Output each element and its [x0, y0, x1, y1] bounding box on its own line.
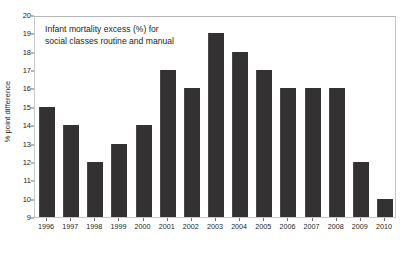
x-tick-mark [312, 218, 313, 221]
bar [87, 162, 103, 217]
bar [377, 199, 393, 217]
bar [63, 125, 79, 217]
x-tick-mark [46, 218, 47, 221]
x-tick-mark [143, 218, 144, 221]
x-tick-mark [239, 218, 240, 221]
y-tick-label: 10 [23, 196, 31, 204]
bar [256, 70, 272, 217]
bar-chart-figure: % point difference 910111213141516171819… [0, 0, 400, 256]
y-axis-title-label: % point difference [4, 80, 13, 142]
bar [184, 88, 200, 217]
bar [111, 144, 127, 217]
chart-annotation: Infant mortality excess (%) forsocial cl… [45, 23, 174, 48]
bar [208, 33, 224, 217]
y-tick-label: 15 [23, 104, 31, 112]
x-tick-label: 1999 [110, 223, 126, 230]
x-tick-label: 2002 [183, 223, 199, 230]
y-tick-label: 20 [23, 12, 31, 20]
x-tick-label: 2007 [304, 223, 320, 230]
x-tick-mark [191, 218, 192, 221]
y-tick-label: 13 [23, 141, 31, 149]
bar [305, 88, 321, 217]
x-tick-mark [360, 218, 361, 221]
y-tick-label: 16 [23, 86, 31, 94]
bar [232, 52, 248, 217]
x-tick-label: 2009 [352, 223, 368, 230]
x-tick-mark [215, 218, 216, 221]
annotation-line: social classes routine and manual [45, 35, 174, 47]
bar [353, 162, 369, 217]
x-tick-label: 2003 [207, 223, 223, 230]
y-tick-label: 12 [23, 159, 31, 167]
x-tick-label: 1997 [62, 223, 78, 230]
y-axis-title: % point difference [0, 0, 16, 222]
y-axis-tick-labels: 91011121314151617181920 [16, 0, 34, 222]
x-tick-label: 2008 [328, 223, 344, 230]
x-tick-mark [384, 218, 385, 221]
x-tick-label: 1996 [38, 223, 54, 230]
plot-area: Infant mortality excess (%) forsocial cl… [34, 16, 396, 218]
y-tick-label: 17 [23, 67, 31, 75]
bar [39, 107, 55, 217]
x-tick-mark [263, 218, 264, 221]
annotation-line: Infant mortality excess (%) for [45, 23, 174, 35]
y-tick-label: 18 [23, 49, 31, 57]
x-tick-label: 2000 [135, 223, 151, 230]
x-tick-mark [336, 218, 337, 221]
bar [329, 88, 345, 217]
x-axis: 1996199719981999200020012002200320042005… [34, 218, 396, 256]
y-tick-label: 19 [23, 31, 31, 39]
x-tick-label: 2006 [279, 223, 295, 230]
x-tick-label: 2001 [159, 223, 175, 230]
x-tick-mark [287, 218, 288, 221]
x-tick-mark [70, 218, 71, 221]
bar [136, 125, 152, 217]
x-tick-label: 2005 [255, 223, 271, 230]
y-tick-label: 11 [23, 178, 31, 186]
bar [280, 88, 296, 217]
x-tick-label: 1998 [86, 223, 102, 230]
x-tick-mark [94, 218, 95, 221]
bar [160, 70, 176, 217]
x-tick-mark [167, 218, 168, 221]
x-tick-label: 2010 [376, 223, 392, 230]
x-tick-mark [118, 218, 119, 221]
y-tick-label: 14 [23, 122, 31, 130]
x-tick-label: 2004 [231, 223, 247, 230]
